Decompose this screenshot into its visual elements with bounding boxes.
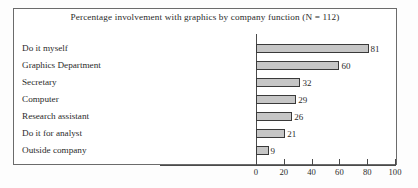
- x-axis-tick-label: 0: [244, 167, 268, 177]
- bar: [256, 108, 292, 125]
- bar-rect: [256, 129, 285, 138]
- category-label: Secretary: [22, 74, 57, 91]
- x-axis-line: [160, 165, 396, 166]
- category-label: Research assistant: [22, 108, 89, 125]
- bar-value-label: 81: [371, 40, 380, 57]
- category-label: Computer: [22, 91, 59, 108]
- x-axis-tick-label: 60: [327, 167, 351, 177]
- bar-rect: [256, 146, 269, 155]
- x-axis-tick-label: 40: [300, 167, 324, 177]
- x-axis-tick-label: 20: [272, 167, 296, 177]
- bar: [256, 57, 339, 74]
- bar-rect: [256, 95, 296, 104]
- x-axis-tick: [367, 159, 368, 165]
- bar-value-label: 29: [298, 91, 307, 108]
- bar: [256, 125, 285, 142]
- x-axis-tick-label: 100: [383, 167, 407, 177]
- x-axis-tick: [339, 159, 340, 165]
- category-label: Outside company: [22, 142, 87, 159]
- bar: [256, 74, 300, 91]
- bar-value-label: 32: [302, 74, 311, 91]
- bar-rect: [256, 44, 369, 53]
- x-axis-tick: [395, 159, 396, 165]
- bar-rect: [256, 112, 292, 121]
- category-label: Do it myself: [22, 40, 68, 57]
- plot-area: Do it myself81Graphics Department60Secre…: [0, 0, 418, 188]
- bar: [256, 91, 296, 108]
- category-label: Graphics Department: [22, 57, 101, 74]
- bar-value-label: 26: [294, 108, 303, 125]
- bar: [256, 40, 369, 57]
- bar-value-label: 21: [287, 125, 296, 142]
- bar-rect: [256, 61, 339, 70]
- bar-value-label: 60: [341, 57, 350, 74]
- x-axis-tick: [256, 159, 257, 165]
- bar: [256, 142, 269, 159]
- x-axis-tick: [312, 159, 313, 165]
- bar-value-label: 9: [271, 142, 276, 159]
- x-axis-tick-label: 80: [355, 167, 379, 177]
- category-label: Do it for analyst: [22, 125, 82, 142]
- bar-chart-figure: Percentage involvement with graphics by …: [0, 0, 418, 188]
- x-axis-tick: [284, 159, 285, 165]
- bar-rect: [256, 78, 300, 87]
